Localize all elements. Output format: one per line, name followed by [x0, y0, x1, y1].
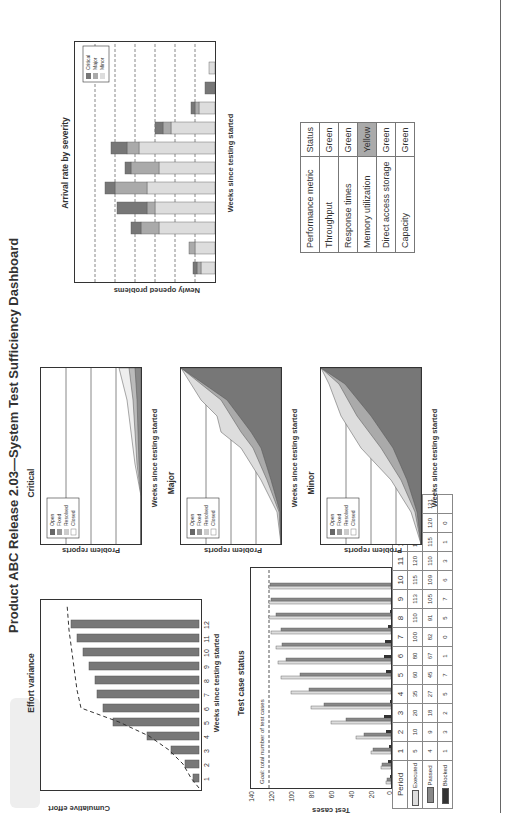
table-cell: 45 [423, 665, 438, 684]
test-case-status-title: Test case status [236, 613, 246, 753]
table-cell: 60 [408, 665, 423, 684]
svg-text:3: 3 [203, 749, 210, 753]
svg-text:80: 80 [308, 791, 315, 799]
svg-text:Fixed: Fixed [196, 514, 202, 526]
major-chart: Open Fixed Resolved Closed [180, 367, 282, 545]
table-cell: 35 [408, 684, 423, 703]
metric-header: Performance metric [301, 157, 320, 253]
table-cell: 5 [408, 741, 423, 760]
table-cell: 5 [438, 608, 453, 627]
table-cell: 115 [408, 570, 423, 589]
metric-cell: Capacity [396, 157, 415, 253]
effort-variance-title: Effort variance [26, 613, 36, 753]
effort-variance-chart [40, 599, 202, 791]
metric-cell: Memory utilization [358, 157, 377, 253]
table-cell: 113 [408, 589, 423, 608]
svg-text:4: 4 [203, 735, 210, 739]
table-cell: 110 [423, 551, 438, 570]
status-cell-yellow: Yellow [358, 122, 377, 157]
table-cell: 80 [408, 646, 423, 665]
critical-ylabel: Problem reports [62, 546, 120, 555]
svg-text:Minor: Minor [99, 57, 105, 70]
status-header: Status [301, 122, 320, 157]
metric-cell: Throughput [320, 157, 339, 253]
test-case-status-chart: Goal: total number of test cases [250, 567, 392, 789]
metric-cell: Response times [339, 157, 358, 253]
period-cell: 5 [393, 665, 408, 684]
blocked-swatch-icon [442, 788, 449, 804]
svg-text:Open: Open [189, 514, 195, 526]
period-cell: 8 [393, 608, 408, 627]
svg-text:Fixed: Fixed [56, 514, 62, 526]
svg-text:11: 11 [203, 635, 210, 642]
svg-text:7: 7 [203, 693, 210, 697]
svg-text:10: 10 [203, 649, 210, 657]
status-cell: Green [396, 122, 415, 157]
period-cell: 1 [393, 741, 408, 760]
svg-text:Resolved: Resolved [203, 505, 209, 526]
effort-variance-ylabel: Cumulative effort [48, 804, 110, 813]
table-cell: 0 [438, 513, 453, 532]
table-cell: 6 [438, 570, 453, 589]
table-cell: 2 [438, 703, 453, 722]
table-cell: 1 [438, 646, 453, 665]
metric-cell: Direct access storage [377, 157, 396, 253]
period-cell: 3 [393, 703, 408, 722]
executed-swatch-icon [412, 790, 419, 806]
table-cell: 3 [438, 551, 453, 570]
svg-text:6: 6 [203, 707, 210, 711]
svg-text:40: 40 [348, 791, 355, 799]
status-cell: Green [377, 122, 396, 157]
major-ylabel: Problem reports [204, 546, 262, 555]
svg-text:9: 9 [203, 665, 210, 669]
table-cell: 82 [423, 627, 438, 646]
minor-ylabel: Problem reports [344, 546, 402, 555]
table-cell: 4 [423, 741, 438, 760]
table-cell: 1 [438, 741, 453, 760]
table-cell: 91 [423, 608, 438, 627]
major-plot: Open Fixed Resolved Closed [181, 368, 281, 544]
period-header: Period [393, 760, 408, 808]
arrival-chart: Critical Major Minor [74, 41, 216, 283]
effort-variance-plot [41, 600, 201, 790]
table-cell: 5 [438, 684, 453, 703]
table-cell: 9 [423, 722, 438, 741]
arrival-title: Arrival rate by severity [60, 73, 70, 253]
status-cell: Green [320, 122, 339, 157]
svg-text:120: 120 [268, 791, 275, 802]
critical-plot: Open Fixed Resolved Closed [41, 368, 141, 544]
table-row-blocked: Blocked 1 3 2 5 7 1 0 5 7 6 3 1 0 [438, 494, 453, 808]
table-cell: 20 [408, 703, 423, 722]
period-cell: 6 [393, 646, 408, 665]
svg-text:Closed: Closed [70, 510, 76, 526]
minor-title: Minor [306, 453, 316, 513]
period-cell: 10 [393, 570, 408, 589]
table-cell: 18 [423, 703, 438, 722]
table-cell [438, 494, 453, 513]
minor-chart: Open Fixed Resolved Closed [320, 367, 422, 545]
svg-text:Critical: Critical [85, 55, 91, 70]
table-cell: 109 [423, 570, 438, 589]
svg-text:Major: Major [92, 57, 98, 70]
performance-table: Performance metric Status Throughput Gre… [300, 122, 415, 253]
table-row: Capacity Green [396, 122, 415, 252]
table-row: Response times Green [339, 122, 358, 252]
period-cell: 9 [393, 589, 408, 608]
svg-text:60: 60 [328, 791, 335, 799]
table-cell: 3 [438, 722, 453, 741]
status-cell: Green [339, 122, 358, 157]
table-row-passed: Passed 4 9 18 27 45 67 82 91 105 109 110… [423, 494, 438, 808]
table-cell: 105 [423, 589, 438, 608]
effort-variance-xlabel: Weeks since testing started [212, 613, 221, 753]
major-xlabel: Weeks since testing started [290, 393, 299, 523]
major-title: Major [166, 453, 176, 513]
goal-label: Goal: total number of test cases [259, 699, 265, 784]
test-case-status-plot: Goal: total number of test cases [251, 568, 391, 788]
table-cell: 100 [408, 627, 423, 646]
table-cell: 1 [438, 532, 453, 551]
table-row-header: Performance metric Status [301, 122, 320, 252]
table-row: Throughput Green [320, 122, 339, 252]
arrival-plot: Critical Major Minor [75, 42, 215, 282]
svg-text:1: 1 [203, 777, 210, 781]
critical-chart: Open Fixed Resolved Closed [40, 367, 142, 545]
